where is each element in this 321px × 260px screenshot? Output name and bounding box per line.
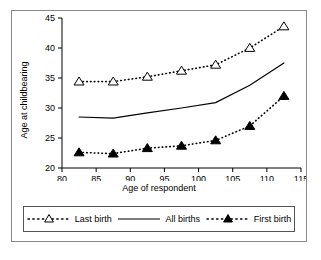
chart-canvas: 20253035404580859095100105110115 [12, 11, 306, 181]
legend-label-last-birth: Last birth [75, 215, 112, 224]
svg-text:40: 40 [45, 43, 55, 53]
open-triangle-dotted-icon [27, 213, 71, 225]
svg-text:20: 20 [45, 163, 55, 173]
svg-text:105: 105 [225, 174, 240, 181]
plot-block: 20253035404580859095100105110115 Age at … [12, 11, 306, 197]
y-axis-title: Age at childbearing [19, 52, 29, 148]
x-axis-title: Age of respondent [12, 183, 306, 193]
legend-item-last-birth: Last birth [27, 213, 112, 225]
svg-text:100: 100 [191, 174, 206, 181]
svg-text:25: 25 [45, 133, 55, 143]
svg-text:35: 35 [45, 73, 55, 83]
legend-label-first-birth: First birth [254, 215, 292, 224]
legend-label-all-births: All births [165, 215, 200, 224]
svg-text:95: 95 [159, 174, 169, 181]
solid-line-icon [117, 213, 161, 225]
legend-item-first-birth: First birth [206, 213, 292, 225]
svg-text:85: 85 [91, 174, 101, 181]
svg-text:30: 30 [45, 103, 55, 113]
chart-legend: Last birth All births First birth [23, 206, 295, 232]
legend-item-all-births: All births [117, 213, 200, 225]
svg-text:80: 80 [57, 174, 67, 181]
svg-text:110: 110 [260, 174, 274, 181]
filled-triangle-dotted-icon [206, 213, 250, 225]
svg-text:90: 90 [125, 174, 135, 181]
svg-text:115: 115 [294, 174, 306, 181]
svg-text:45: 45 [45, 13, 55, 23]
figure-frame: 20253035404580859095100105110115 Age at … [11, 10, 307, 242]
